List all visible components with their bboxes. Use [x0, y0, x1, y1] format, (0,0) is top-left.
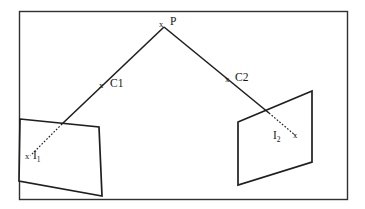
point-marker-c1: x [99, 81, 103, 90]
point-marker-i2: x [293, 131, 297, 140]
figure-canvas: x x x x x P C1 C2 I1 I2 [0, 0, 365, 209]
label-point-c1: C1 [110, 78, 123, 90]
label-point-i1: I1 [33, 150, 41, 162]
diagram-svg [0, 0, 365, 209]
label-point-p: P [170, 16, 176, 28]
label-point-i2: I2 [273, 130, 281, 142]
label-i1-subscript: 1 [37, 155, 41, 164]
label-point-c2: C2 [235, 72, 248, 84]
point-marker-c2: x [225, 75, 229, 84]
point-marker-p: x [159, 20, 163, 29]
label-i2-subscript: 2 [277, 135, 281, 144]
point-marker-i1: x [25, 152, 29, 161]
